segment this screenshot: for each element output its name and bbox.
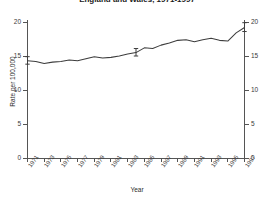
data-line: [28, 27, 245, 63]
data-series-layer: [0, 0, 274, 200]
error-bars: [25, 23, 246, 64]
chart-container: England and Wales, 1971-1997 00551010151…: [0, 0, 274, 200]
